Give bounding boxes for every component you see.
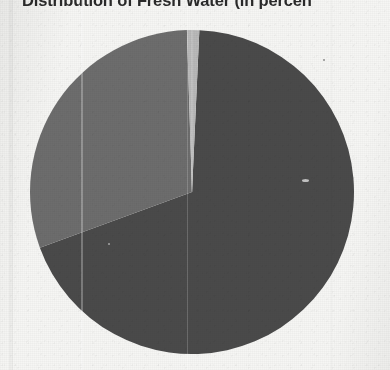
chart-title: Distribution of Fresh Water (in percen: [22, 0, 312, 10]
pie-chart-svg: [0, 0, 390, 370]
scanned-page: Distribution of Fresh Water (in percen: [0, 0, 390, 370]
chart-title-clip: Distribution of Fresh Water (in percen: [0, 0, 390, 16]
pie-chart: [0, 0, 390, 370]
